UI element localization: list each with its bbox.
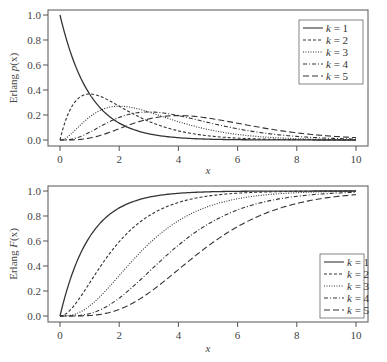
curve-k2 [60,94,356,140]
pdf-panel: 0.00.20.40.60.81.0 0246810 Erlang p(x) x… [7,9,368,176]
legend-label-k2: k = 2 [347,268,369,280]
curve-k3 [60,191,356,316]
curve-k5 [60,195,356,316]
cdf-legend: k = 1k = 2k = 3k = 4k = 5 [320,254,370,318]
cdf-panel: 0.00.20.40.60.81.0 0246810 Erlang F(x) x… [7,185,370,354]
cdf-x-axis: 0246810 [57,322,362,341]
legend-label-k2: k = 2 [326,34,348,46]
x-tick-label: 10 [351,329,363,341]
x-tick-label: 6 [235,153,241,165]
curve-k4 [60,192,356,316]
cdf-curves [60,191,356,316]
x-tick-label: 2 [116,329,122,341]
y-tick-label: 1.0 [27,9,41,21]
x-tick-label: 0 [57,329,63,341]
y-tick-label: 1.0 [27,185,41,197]
y-tick-label: 0.2 [27,285,41,297]
cdf-y-axis: 0.00.20.40.60.81.0 [27,185,48,322]
pdf-legend: k = 1k = 2k = 3k = 4k = 5 [299,20,363,84]
y-tick-label: 0.6 [27,235,41,247]
x-tick-label: 6 [235,329,241,341]
erlang-figure: 0.00.20.40.60.81.0 0246810 Erlang p(x) x… [0,0,387,362]
pdf-y-axis: 0.00.20.40.60.81.0 [27,9,48,146]
x-tick-label: 0 [57,153,63,165]
curve-k2 [60,191,356,316]
x-tick-label: 2 [116,153,122,165]
y-tick-label: 0.6 [27,59,41,71]
pdf-x-axis-label: x [205,164,211,176]
cdf-x-axis-label: x [205,342,211,354]
legend-label-k1: k = 1 [347,256,369,268]
legend-label-k5: k = 5 [326,70,349,82]
legend-label-k3: k = 3 [326,46,349,58]
x-tick-label: 10 [351,153,363,165]
y-tick-label: 0.4 [27,84,41,96]
cdf-y-axis-label: Erlang F(x) [7,228,20,280]
legend-label-k3: k = 3 [347,280,370,292]
y-tick-label: 0.0 [27,310,41,322]
pdf-x-axis: 0246810 [57,146,362,165]
curve-k1 [60,191,356,316]
y-tick-label: 0.0 [27,134,41,146]
legend-label-k1: k = 1 [326,22,348,34]
y-tick-label: 0.8 [27,210,41,222]
legend-label-k4: k = 4 [326,58,349,70]
y-tick-label: 0.8 [27,34,41,46]
y-tick-label: 0.4 [27,260,41,272]
legend-label-k5: k = 5 [347,304,370,316]
legend-label-k4: k = 4 [347,292,370,304]
pdf-y-axis-label: Erlang p(x) [7,52,20,103]
x-tick-label: 4 [176,153,182,165]
x-tick-label: 4 [176,329,182,341]
y-tick-label: 0.2 [27,109,41,121]
x-tick-label: 8 [294,153,300,165]
x-tick-label: 8 [294,329,300,341]
